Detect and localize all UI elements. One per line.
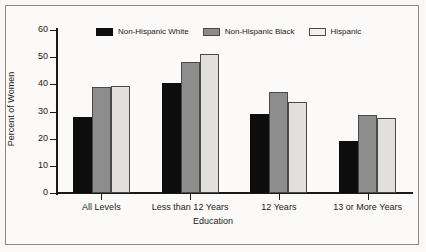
legend-label: Non-Hispanic Black — [225, 27, 295, 36]
bar — [288, 102, 307, 193]
y-axis-tick-label: 0 — [26, 188, 48, 197]
y-axis-tick-label: 10 — [26, 161, 48, 170]
y-axis-tick-label: 40 — [26, 79, 48, 88]
bar — [181, 62, 200, 193]
legend-item: Non-Hispanic White — [96, 27, 189, 36]
bar — [377, 118, 396, 193]
y-axis-tick — [50, 112, 56, 113]
plot-area — [57, 30, 412, 193]
bar — [73, 117, 92, 193]
x-axis-tick — [368, 194, 369, 200]
legend-swatch-icon — [96, 28, 113, 36]
bar — [269, 92, 288, 193]
bar — [250, 114, 269, 193]
chart-screenshot: 0102030405060 All LevelsLess than 12 Yea… — [0, 0, 426, 252]
bar — [200, 54, 219, 193]
y-axis-tick-label: 30 — [26, 107, 48, 116]
y-axis-tick-label-wrap: 10 — [22, 161, 48, 170]
bar — [358, 115, 377, 193]
y-axis-tick — [50, 57, 56, 58]
y-axis-tick — [50, 30, 56, 31]
bar — [111, 86, 130, 193]
legend-item: Non-Hispanic Black — [203, 27, 295, 36]
x-axis-title: Education — [0, 216, 426, 226]
y-axis-title: Percent of Women — [6, 49, 16, 169]
y-axis-tick-label-wrap: 50 — [22, 52, 48, 61]
y-axis-tick — [50, 84, 56, 85]
y-axis-tick-label: 50 — [26, 52, 48, 61]
x-axis-tick-label: Less than 12 Years — [146, 202, 235, 213]
y-axis-tick-label: 20 — [26, 134, 48, 143]
legend-item: Hispanic — [309, 27, 362, 36]
y-axis-tick-label: 60 — [26, 25, 48, 34]
legend-label: Non-Hispanic White — [118, 27, 189, 36]
y-axis-tick-label-wrap: 30 — [22, 107, 48, 116]
y-axis-tick — [50, 193, 56, 194]
y-axis-tick — [50, 139, 56, 140]
legend-swatch-icon — [203, 28, 220, 36]
y-axis-tick-label-wrap: 60 — [22, 25, 48, 34]
y-axis-tick-label-wrap: 20 — [22, 134, 48, 143]
legend-label: Hispanic — [331, 27, 362, 36]
legend-swatch-icon — [309, 28, 326, 36]
y-axis-tick — [50, 166, 56, 167]
y-axis-tick-label-wrap: 40 — [22, 79, 48, 88]
x-axis-tick — [101, 194, 102, 200]
x-axis-tick-label: 13 or More Years — [323, 202, 412, 213]
x-axis-tick — [279, 194, 280, 200]
bar — [162, 83, 181, 193]
x-axis-tick-label: All Levels — [57, 202, 146, 213]
y-axis-tick-label-wrap: 0 — [22, 188, 48, 197]
x-axis-tick — [190, 194, 191, 200]
bar — [339, 141, 358, 193]
x-axis-tick-label: 12 Years — [235, 202, 324, 213]
chart-legend: Non-Hispanic WhiteNon-Hispanic BlackHisp… — [96, 27, 361, 36]
bar — [92, 87, 111, 193]
